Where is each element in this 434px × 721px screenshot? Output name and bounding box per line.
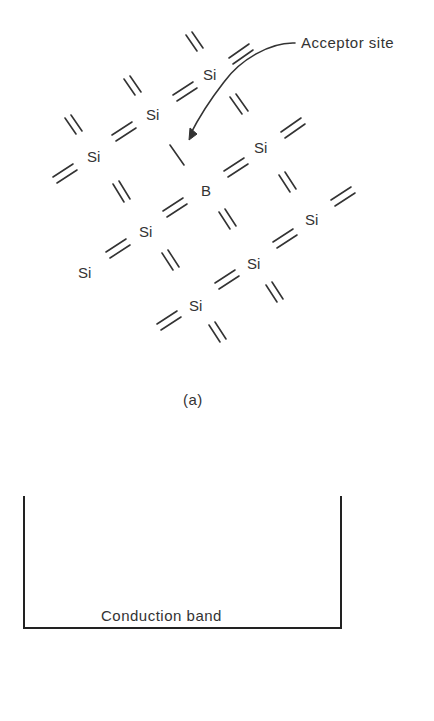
- atom-si-9: Si: [189, 297, 202, 314]
- atom-si-1: Si: [203, 66, 216, 83]
- atom-si-5: Si: [139, 223, 152, 240]
- doped-silicon-lattice-figure: Si Si Si Si B Si Si Si Si Si Acceptor si…: [0, 0, 434, 721]
- atom-boron: B: [201, 182, 211, 199]
- atom-si-7: Si: [305, 211, 318, 228]
- panel-a-caption: (a): [183, 391, 203, 408]
- atom-si-3: Si: [87, 148, 100, 165]
- atom-si-8: Si: [247, 255, 260, 272]
- atom-si-2: Si: [146, 106, 159, 123]
- atom-si-4: Si: [254, 139, 267, 156]
- atom-labels: Si Si Si Si B Si Si Si Si Si: [78, 66, 318, 314]
- acceptor-site-label: Acceptor site: [301, 34, 394, 51]
- conduction-band-label: Conduction band: [101, 607, 222, 624]
- atom-si-6: Si: [78, 264, 91, 281]
